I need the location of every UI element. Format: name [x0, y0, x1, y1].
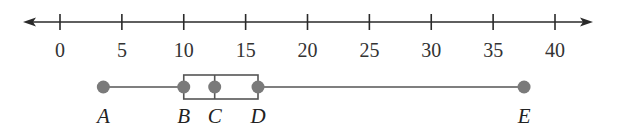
box-and-whisker: ABCDE — [95, 75, 531, 128]
tick-labels: 0510152025303540 — [55, 39, 565, 61]
tick-label: 25 — [359, 39, 379, 61]
point-e-dot — [518, 81, 531, 94]
point-label-d: D — [249, 104, 265, 128]
tick-label: 35 — [483, 39, 503, 61]
tick-label: 10 — [174, 39, 194, 61]
point-label-b: B — [177, 104, 190, 128]
tick-label: 20 — [298, 39, 318, 61]
tick-label: 5 — [117, 39, 127, 61]
tick-label: 40 — [545, 39, 565, 61]
point-b-dot — [177, 81, 190, 94]
tick-label: 0 — [55, 39, 65, 61]
tick-label: 15 — [236, 39, 256, 61]
point-label-e: E — [517, 104, 531, 128]
point-labels: ABCDE — [95, 104, 531, 128]
point-a-dot — [97, 81, 110, 94]
point-label-a: A — [95, 104, 110, 128]
tick-label: 30 — [421, 39, 441, 61]
box-plot-diagram: 0510152025303540 ABCDE — [0, 0, 617, 134]
point-c-dot — [208, 81, 221, 94]
point-label-c: C — [208, 104, 223, 128]
number-line: 0510152025303540 — [23, 14, 593, 61]
point-d-dot — [252, 81, 265, 94]
